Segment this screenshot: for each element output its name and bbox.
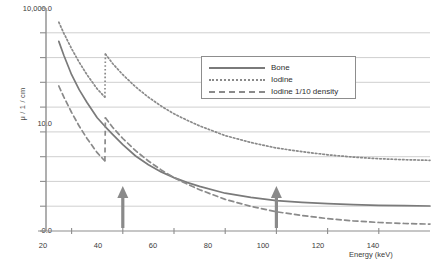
axis-ticks — [40, 8, 379, 234]
arrow-marker-40kev — [117, 186, 128, 228]
plot-area — [0, 0, 433, 260]
legend-line-dotted-icon — [209, 75, 265, 84]
legend-label-iodine: Iodine — [271, 75, 293, 84]
k-edge-jump — [105, 54, 106, 97]
legend-line-solid-icon — [209, 63, 265, 72]
curve-iodine-1-10-density — [105, 118, 430, 224]
legend-item-iodine-tenth: Iodine 1/10 density — [209, 86, 338, 97]
curve-iodine-1-10-density — [59, 86, 105, 161]
legend-item-iodine: Iodine — [209, 74, 293, 85]
k-edge-jump — [105, 118, 106, 161]
legend-line-dashed-icon — [209, 87, 265, 96]
data-curves — [59, 22, 430, 224]
arrow-marker-100kev — [271, 186, 282, 228]
legend-label-bone: Bone — [271, 63, 290, 72]
attenuation-chart: μ / 1 / cm 10,000.0 10.0 0.0 20 40 60 80… — [0, 0, 433, 260]
legend: Bone Iodine Iodine 1/10 density — [201, 56, 356, 99]
legend-item-bone: Bone — [209, 62, 290, 73]
legend-label-iodine-tenth: Iodine 1/10 density — [271, 87, 338, 96]
